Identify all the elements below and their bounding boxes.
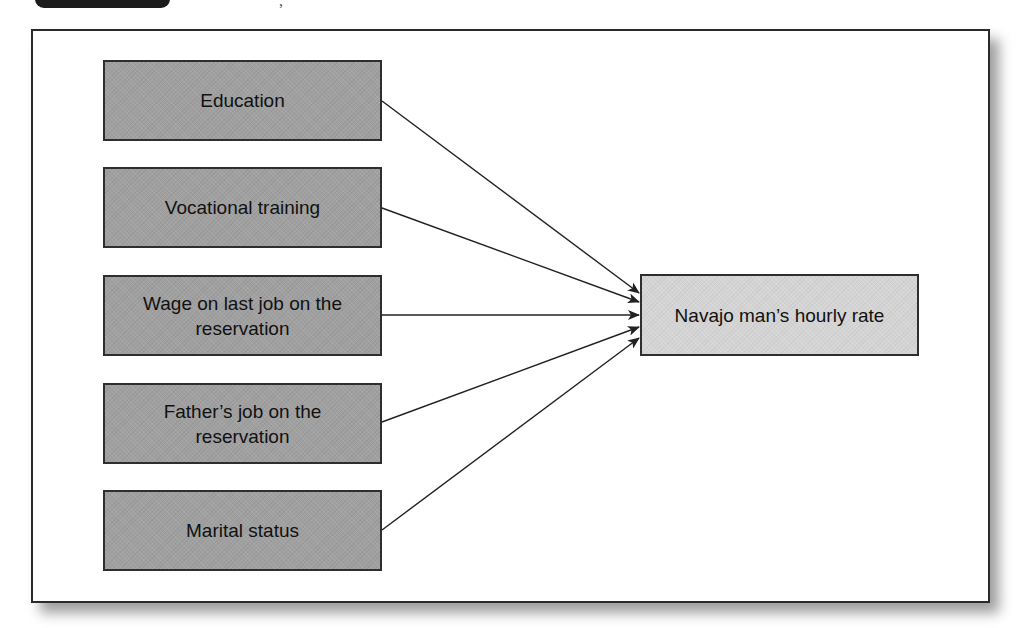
node-label: Vocational training xyxy=(165,195,320,220)
node-education: Education xyxy=(103,60,382,141)
node-label: Education xyxy=(200,88,285,113)
node-fathers-job: Father’s job on the reservation xyxy=(103,383,382,464)
node-marital-status: Marital status xyxy=(103,490,382,571)
node-label: Marital status xyxy=(186,518,299,543)
header-text-fragment: , xyxy=(279,0,283,10)
node-vocational-training: Vocational training xyxy=(103,167,382,248)
node-label: Wage on last job on the reservation xyxy=(118,291,368,341)
node-label: Navajo man’s hourly rate xyxy=(675,303,885,328)
header-tab xyxy=(35,0,170,8)
node-wage-last-job: Wage on last job on the reservation xyxy=(103,275,382,356)
node-hourly-rate: Navajo man’s hourly rate xyxy=(640,274,919,356)
node-label: Father’s job on the reservation xyxy=(138,399,348,449)
